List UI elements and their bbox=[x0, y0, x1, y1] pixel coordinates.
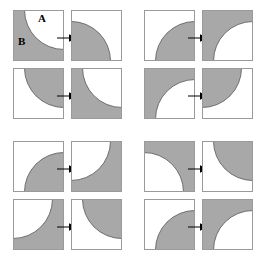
quarter-disc-top-right-icon bbox=[82, 68, 122, 108]
pair-5 bbox=[0, 139, 131, 199]
region-label-a: A bbox=[38, 13, 46, 24]
pair-2 bbox=[0, 66, 131, 126]
pair-3 bbox=[131, 8, 262, 68]
quarter-disc-top-left-icon bbox=[13, 199, 53, 239]
pair-4-dst-panel bbox=[202, 68, 253, 119]
pair-1-dst-panel bbox=[71, 10, 122, 61]
pair-8-dst-panel bbox=[202, 199, 253, 250]
group-bottom-left bbox=[0, 131, 131, 261]
figure-root: AB bbox=[0, 0, 263, 261]
pair-2-dst-panel bbox=[71, 68, 122, 119]
quarter-disc-top-right-icon bbox=[213, 141, 253, 181]
pair-2-src-panel bbox=[13, 68, 64, 119]
quarter-disc-top-right-icon bbox=[24, 68, 64, 108]
quarter-disc-top-left-icon bbox=[71, 141, 111, 181]
pair-3-src-panel bbox=[144, 10, 195, 61]
quarter-disc-bottom-right-icon bbox=[155, 210, 195, 250]
pair-7-dst-panel bbox=[202, 141, 253, 192]
pair-7 bbox=[131, 139, 262, 199]
pair-3-dst-panel bbox=[202, 10, 253, 61]
quarter-disc-bottom-right-icon bbox=[213, 210, 253, 250]
pair-8-src-panel bbox=[144, 199, 195, 250]
quarter-disc-bottom-right-icon bbox=[155, 79, 195, 119]
group-top-right bbox=[131, 0, 262, 130]
quarter-disc-bottom-right-icon bbox=[155, 21, 195, 61]
quarter-disc-top-right-icon bbox=[82, 199, 122, 239]
pair-6 bbox=[0, 197, 131, 257]
quarter-disc-top-left-icon bbox=[202, 68, 242, 108]
pair-5-dst-panel bbox=[71, 141, 122, 192]
quarter-disc-bottom-right-icon bbox=[24, 152, 64, 192]
quarter-disc-bottom-right-icon bbox=[213, 21, 253, 61]
quarter-disc-bottom-left-icon bbox=[144, 152, 184, 192]
pair-8 bbox=[131, 197, 262, 257]
pair-4-src-panel bbox=[144, 68, 195, 119]
quarter-disc-bottom-left-icon bbox=[71, 21, 111, 61]
pair-1: AB bbox=[0, 8, 131, 68]
pair-6-dst-panel bbox=[71, 199, 122, 250]
pair-4 bbox=[131, 66, 262, 126]
region-label-b: B bbox=[18, 36, 25, 47]
pair-7-src-panel bbox=[144, 141, 195, 192]
pair-6-src-panel bbox=[13, 199, 64, 250]
group-bottom-right bbox=[131, 131, 262, 261]
group-top-left: AB bbox=[0, 0, 131, 130]
pair-5-src-panel bbox=[13, 141, 64, 192]
